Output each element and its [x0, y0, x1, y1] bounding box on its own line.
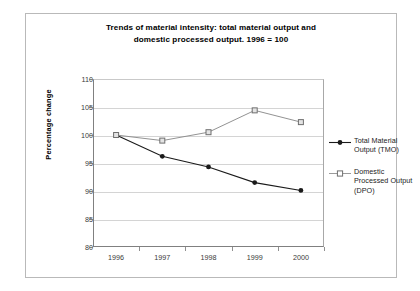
- x-tick-label: 1999: [232, 253, 278, 262]
- y-axis-title: Percentage change: [44, 89, 53, 159]
- y-tick-label: 105: [53, 103, 93, 112]
- legend-label-tmo: Total Material Output (TMO): [354, 136, 420, 155]
- y-tick-label: 90: [53, 187, 93, 196]
- legend-label-tmo-line-2: Output (TMO): [354, 145, 420, 154]
- x-tick-label: 1996: [93, 253, 139, 262]
- data-point[interactable]: [114, 133, 119, 138]
- chart-legend: Total Material Output (TMO) Domestic Pro…: [329, 136, 420, 207]
- series-plot: [93, 79, 324, 247]
- y-tick-mark: [89, 219, 93, 220]
- y-tick-mark: [89, 247, 93, 248]
- y-tick-mark: [89, 191, 93, 192]
- data-point[interactable]: [252, 180, 257, 185]
- legend-label-dpo-line-3: (DPO): [354, 186, 420, 195]
- x-tick-mark: [139, 247, 140, 251]
- legend-label-dpo: Domestic Processed Output (DPO): [354, 167, 420, 195]
- y-tick-mark: [89, 135, 93, 136]
- series-line: [116, 110, 301, 140]
- series-tmo: [114, 133, 304, 193]
- x-tick-mark: [232, 247, 233, 251]
- y-tick-label: 100: [53, 131, 93, 140]
- y-tick-label: 85: [53, 215, 93, 224]
- legend-label-dpo-line-1: Domestic: [354, 167, 420, 176]
- legend-key-dpo-icon: [329, 169, 351, 178]
- y-tick-mark: [89, 79, 93, 80]
- y-tick-label: 80: [53, 243, 93, 252]
- legend-item-dpo[interactable]: Domestic Processed Output (DPO): [329, 167, 420, 195]
- data-point[interactable]: [160, 154, 165, 159]
- chart-title: Trends of material intensity: total mate…: [26, 22, 396, 46]
- chart-title-line-2: domestic processed output. 1996 = 100: [26, 34, 396, 46]
- data-point[interactable]: [299, 188, 304, 193]
- legend-label-dpo-line-2: Processed Output: [354, 176, 420, 185]
- data-point[interactable]: [206, 130, 211, 135]
- data-point[interactable]: [206, 165, 211, 170]
- x-tick-mark: [324, 247, 325, 251]
- legend-label-tmo-line-1: Total Material: [354, 136, 420, 145]
- y-tick-mark: [89, 107, 93, 108]
- y-tick-mark: [89, 163, 93, 164]
- y-tick-label: 95: [53, 159, 93, 168]
- data-point[interactable]: [252, 108, 257, 113]
- y-tick-label: 110: [53, 75, 93, 84]
- x-tick-mark: [278, 247, 279, 251]
- legend-item-tmo[interactable]: Total Material Output (TMO): [329, 136, 420, 155]
- data-point[interactable]: [298, 120, 303, 125]
- series-dpo: [114, 108, 304, 143]
- x-tick-label: 1998: [186, 253, 232, 262]
- series-line: [116, 135, 301, 190]
- data-point[interactable]: [160, 138, 165, 143]
- x-tick-label: 2000: [278, 253, 324, 262]
- chart-title-line-1: Trends of material intensity: total mate…: [26, 22, 396, 34]
- chart-frame: Trends of material intensity: total mate…: [25, 13, 397, 278]
- legend-key-tmo-icon: [329, 138, 351, 147]
- x-tick-mark: [185, 247, 186, 251]
- x-tick-label: 1997: [139, 253, 185, 262]
